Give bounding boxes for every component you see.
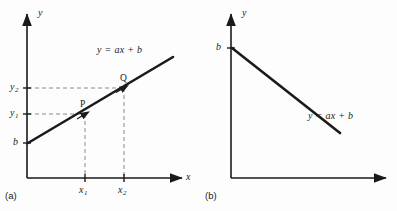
panel-b-equation-label: y = ax + b <box>308 110 353 121</box>
panel-a-point-q-label: Q <box>120 73 127 83</box>
panel-a-point-p-label: P <box>80 99 85 109</box>
panel-a-graphics <box>0 0 200 211</box>
panel-a-xtick-x2: x2 <box>118 184 126 197</box>
panel-a-ytick-y1-sub: 1 <box>14 112 18 120</box>
panel-a-xtick-x2-sub: 2 <box>122 189 126 197</box>
panel-a-xtick-x1: x1 <box>79 184 87 197</box>
panel-a-ytick-b: b <box>13 136 18 147</box>
panel-b-graphics <box>200 0 397 211</box>
panel-a-y-axis-label: y <box>38 7 42 18</box>
panel-a-ytick-y2-sub: 2 <box>14 86 18 94</box>
panel-b-caption: (b) <box>205 190 217 201</box>
panel-a-xtick-x1-sub: 1 <box>83 189 87 197</box>
panel-a-line <box>28 57 173 143</box>
panel-a-ytick-y2: y2 <box>10 81 18 94</box>
panel-a-equation-label: y = ax + b <box>97 44 142 55</box>
panel-b-ytick-b: b <box>216 41 221 52</box>
panel-a-x-axis-label: x <box>186 171 190 182</box>
figure-linear-functions: y x y = ax + b y2 y1 b x1 x2 P Q (a) y b… <box>0 0 397 211</box>
panel-a-caption: (a) <box>5 190 17 201</box>
panel-b-y-axis-label: y <box>242 7 246 18</box>
panel-a-ytick-y1: y1 <box>10 107 18 120</box>
